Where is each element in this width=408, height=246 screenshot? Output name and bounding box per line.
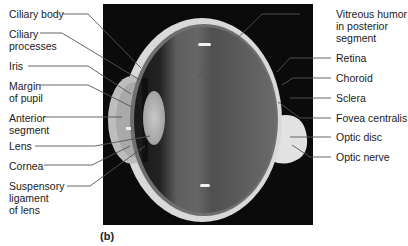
label-anterior-segment: Anterior segment — [9, 112, 49, 136]
label-optic-disc: Optic disc — [336, 131, 382, 143]
label-retina: Retina — [336, 52, 366, 64]
label-fovea-centralis: Fovea centralis — [336, 112, 407, 124]
label-iris: Iris — [9, 60, 23, 72]
label-lens: Lens — [9, 140, 32, 152]
label-sclera: Sclera — [336, 92, 366, 104]
eye-anatomy-figure: Ciliary body Ciliary processes Iris Marg… — [0, 0, 408, 246]
label-ciliary-body: Ciliary body — [9, 8, 64, 20]
label-vitreous-humor: Vitreous humor in posterior segment — [336, 8, 407, 44]
label-ciliary-processes: Ciliary processes — [9, 28, 57, 52]
label-optic-nerve: Optic nerve — [336, 151, 390, 163]
label-cornea: Cornea — [9, 160, 43, 172]
label-suspensory-ligament: Suspensory ligament of lens — [9, 180, 64, 216]
label-choroid: Choroid — [336, 72, 373, 84]
label-margin-of-pupil: Margin of pupil — [9, 80, 43, 104]
panel-label: (b) — [100, 230, 114, 242]
